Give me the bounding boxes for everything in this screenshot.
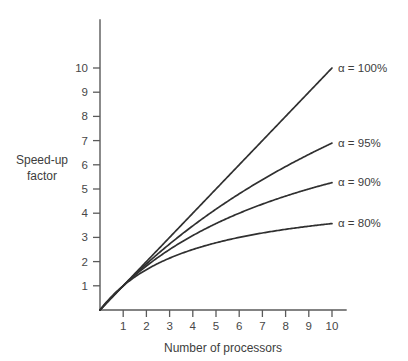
- series-label-alpha-80: α = 80%: [338, 217, 381, 229]
- y-tick-label-8: 8: [82, 110, 88, 122]
- y-axis-title-line1: Speed-up: [16, 153, 68, 167]
- series-annotations: α = 100%α = 95%α = 90%α = 80%: [338, 62, 387, 230]
- x-tick-label-10: 10: [326, 320, 339, 332]
- speedup-chart: 10 9 8 7 6 5 4 3 2 1 1 2 3: [0, 0, 408, 361]
- y-tick-label-2: 2: [82, 256, 88, 268]
- y-tick-label-1: 1: [82, 280, 88, 292]
- y-tick-label-5: 5: [82, 183, 88, 195]
- y-tick-label-7: 7: [82, 135, 88, 147]
- data-curves: [100, 68, 332, 310]
- x-tick-label-2: 2: [143, 320, 149, 332]
- y-tick-label-10: 10: [75, 62, 88, 74]
- x-tick-labels: 1 2 3 4 5 6 7 8 9 10: [120, 320, 338, 332]
- y-tick-label-9: 9: [82, 86, 88, 98]
- x-tick-group: [123, 310, 332, 317]
- x-tick-label-8: 8: [282, 320, 288, 332]
- x-axis-title: Number of processors: [164, 341, 282, 355]
- x-tick-label-6: 6: [236, 320, 242, 332]
- x-tick-label-9: 9: [306, 320, 312, 332]
- y-tick-labels: 10 9 8 7 6 5 4 3 2 1: [75, 62, 88, 292]
- curve-alpha-80: [100, 224, 332, 310]
- x-tick-label-4: 4: [190, 320, 197, 332]
- y-tick-label-4: 4: [82, 207, 89, 219]
- y-tick-label-3: 3: [82, 231, 88, 243]
- curve-alpha-90: [100, 183, 332, 310]
- chart-canvas: 10 9 8 7 6 5 4 3 2 1 1 2 3: [0, 0, 408, 361]
- curve-alpha-95: [100, 143, 332, 310]
- y-tick-label-6: 6: [82, 159, 88, 171]
- x-tick-label-1: 1: [120, 320, 126, 332]
- series-label-alpha-100: α = 100%: [338, 62, 387, 74]
- series-label-alpha-95: α = 95%: [338, 137, 381, 149]
- x-tick-label-3: 3: [166, 320, 172, 332]
- y-tick-group: [93, 68, 100, 286]
- series-label-alpha-90: α = 90%: [338, 176, 381, 188]
- x-tick-label-7: 7: [259, 320, 265, 332]
- y-axis-title-line2: factor: [27, 169, 57, 183]
- x-tick-label-5: 5: [213, 320, 219, 332]
